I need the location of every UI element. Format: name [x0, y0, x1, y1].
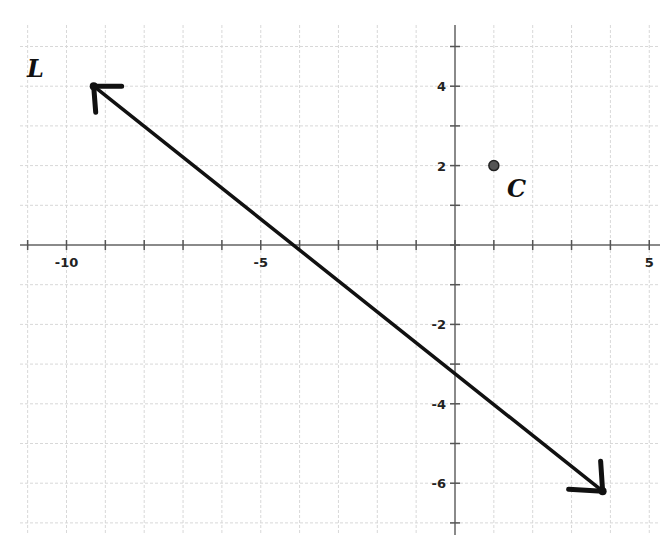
y-tick-label: -2: [432, 317, 446, 332]
x-tick-label: 5: [645, 255, 654, 270]
y-tick-label: 2: [437, 159, 446, 174]
point-c-marker: [489, 161, 499, 171]
x-tick-label: -5: [254, 255, 268, 270]
line-label-l: L: [26, 54, 44, 83]
y-tick-label: 4: [437, 79, 446, 94]
x-tick-label: -10: [55, 255, 79, 270]
arrow-tip-upper: [90, 82, 98, 90]
point-c: [489, 161, 499, 171]
line-l: [90, 82, 607, 495]
point-label-c: C: [507, 174, 526, 203]
y-tick-label: -6: [432, 476, 446, 491]
y-tick-label: -4: [432, 397, 446, 412]
arrow-tip-lower: [599, 487, 607, 495]
line-l-segment: [94, 86, 603, 491]
coordinate-plane: -10-5542-2-4-6 L C: [0, 0, 669, 546]
